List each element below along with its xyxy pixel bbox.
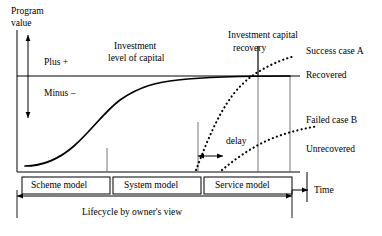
success-case-a-curve: [196, 56, 295, 170]
recovery-label-line1: Investment capital: [228, 30, 298, 42]
phase-label-2: Service model: [215, 180, 270, 190]
failed-case-label: Failed case B: [306, 115, 357, 127]
recovered-label: Recovered: [306, 70, 347, 82]
x-axis-label: Time: [314, 185, 334, 197]
y-axis-label-line2: value: [11, 18, 32, 30]
investment-level-label-line1: Investment: [114, 41, 156, 53]
diagram-canvas: Program value Plus + Minus – Investment …: [0, 0, 382, 236]
success-case-label: Success case A: [306, 46, 364, 58]
y-axis-label-line1: Program: [11, 6, 44, 18]
unrecovered-label: Unrecovered: [306, 144, 355, 156]
failed-case-b-curve: [222, 126, 318, 170]
investment-level-label-line2: level of capital: [108, 53, 164, 65]
lifecycle-span-label: Lifecycle by owner's view: [82, 207, 182, 219]
recovery-label-line2: recovery: [233, 43, 266, 55]
phase-label-0: Scheme model: [31, 180, 87, 190]
delay-label: delay: [226, 136, 247, 148]
plus-label: Plus +: [44, 57, 68, 69]
phase-label-1: System model: [124, 180, 178, 190]
minus-label: Minus –: [44, 88, 75, 100]
